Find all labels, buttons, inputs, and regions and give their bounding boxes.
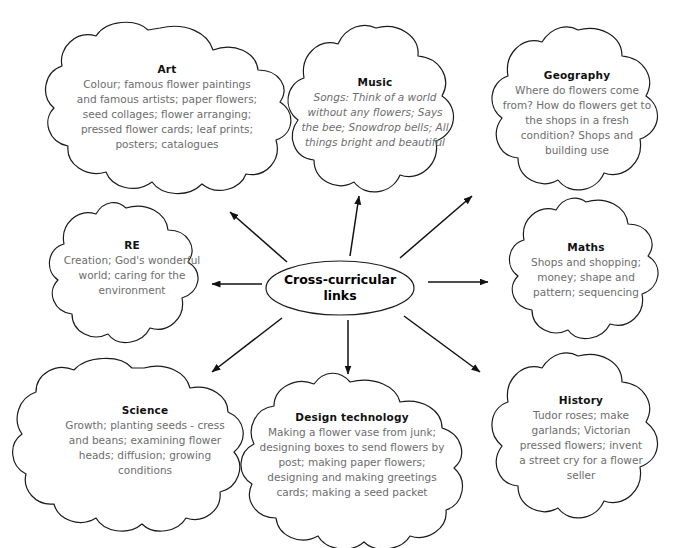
node-maths-body: Shops and shopping; money; shape and pat… — [524, 255, 648, 300]
arrow-to-science — [212, 318, 282, 372]
node-art-body: Colour; famous flower paintings and famo… — [72, 77, 262, 152]
arrow-to-history — [404, 316, 480, 372]
node-design-technology-body: Making a flower vase from junk; designin… — [256, 425, 448, 500]
node-science-title: Science — [122, 403, 169, 418]
node-music-body: Songs: Think of a world without any flow… — [300, 90, 450, 150]
node-art-title: Art — [158, 62, 177, 77]
node-history[interactable]: History Tudor roses; make garlands; Vict… — [516, 372, 646, 504]
node-science[interactable]: Science Growth; planting seeds - cress a… — [60, 388, 230, 492]
arrow-to-music — [350, 196, 359, 256]
arrow-to-art — [230, 212, 287, 262]
node-re-body: Creation; God's wonderful world; caring … — [62, 253, 202, 298]
node-maths-title: Maths — [567, 240, 604, 255]
center-node-label: Cross-curricular links — [267, 272, 413, 303]
node-music[interactable]: Music Songs: Think of a world without an… — [300, 42, 450, 182]
node-science-body: Growth; planting seeds - cress and beans… — [60, 418, 230, 478]
node-re[interactable]: RE Creation; God's wonderful world; cari… — [62, 222, 202, 314]
node-geography-title: Geography — [544, 68, 610, 83]
node-music-title: Music — [358, 75, 393, 90]
node-design-technology-title: Design technology — [295, 410, 408, 425]
node-history-body: Tudor roses; make garlands; Victorian pr… — [516, 408, 646, 483]
mind-map-canvas: Art Colour; famous flower paintings and … — [0, 0, 680, 548]
center-node[interactable]: Cross-curricular links — [267, 262, 413, 314]
node-design-technology[interactable]: Design technology Making a flower vase f… — [256, 398, 448, 512]
arrow-to-geography — [400, 196, 472, 258]
node-geography-body: Where do flowers come from? How do flowe… — [502, 83, 652, 158]
node-re-title: RE — [124, 238, 140, 253]
node-maths[interactable]: Maths Shops and shopping; money; shape a… — [524, 218, 648, 322]
node-geography[interactable]: Geography Where do flowers come from? Ho… — [502, 48, 652, 178]
node-art[interactable]: Art Colour; famous flower paintings and … — [72, 42, 262, 172]
node-history-title: History — [559, 393, 603, 408]
